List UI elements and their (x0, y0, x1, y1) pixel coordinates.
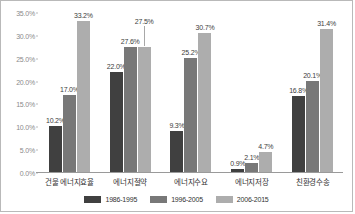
y-axis-tick-label: 0.0% (20, 170, 35, 177)
category-label: 에너지수요 (161, 176, 222, 188)
legend-label: 1996-2005 (171, 196, 203, 203)
bar-group: 22.0%27.6%27.5% (100, 13, 161, 173)
bar-wrapper: 0.9% (231, 13, 244, 173)
y-axis-tick-mark (36, 35, 38, 36)
bar-value-label: 31.4% (317, 20, 336, 27)
category-labels: 건물 에너지효율에너지절약에너지수요에너지저장친환경수송 (39, 176, 343, 188)
bar-wrapper: 25.2% (184, 13, 197, 173)
bar-group: 9.3%25.2%30.7% (161, 13, 222, 173)
y-axis-tick-label: 25.0% (16, 55, 35, 62)
bar[interactable] (138, 47, 151, 173)
legend-swatch (216, 196, 233, 203)
bar-wrapper: 27.5% (138, 13, 151, 173)
legend-label: 1986-1995 (105, 196, 137, 203)
bar[interactable] (198, 33, 211, 173)
bar-wrapper: 17.0% (63, 13, 76, 173)
bar-wrapper: 20.1% (306, 13, 319, 173)
legend-item[interactable]: 1996-2005 (150, 196, 203, 203)
bar-value-label: 0.9% (230, 160, 245, 167)
y-axis-tick-label: 15.0% (16, 101, 35, 108)
bar-value-label: 30.7% (196, 24, 215, 31)
bar[interactable] (306, 81, 319, 173)
bar[interactable] (170, 131, 183, 174)
bar-wrapper: 31.4% (320, 13, 333, 173)
plot-area: 35.0%30.0%25.0%20.0%15.0%10.0%5.0%0.0% 1… (39, 13, 343, 173)
bar-wrapper: 27.6% (124, 13, 137, 173)
bar-value-label: 9.3% (169, 122, 184, 129)
y-axis-tick-label: 5.0% (20, 147, 35, 154)
y-axis-tick-mark (36, 127, 38, 128)
legend-swatch (150, 196, 167, 203)
bar-wrapper: 2.1% (245, 13, 258, 173)
legend-label: 2006-2015 (237, 196, 269, 203)
category-label: 친환경수송 (282, 176, 343, 188)
bar-wrapper: 9.3% (170, 13, 183, 173)
y-axis-tick-label: 30.0% (16, 32, 35, 39)
bar-value-label: 33.2% (74, 12, 93, 19)
bar-value-label: 27.5% (135, 18, 154, 25)
bar[interactable] (124, 47, 137, 173)
bar[interactable] (320, 29, 333, 173)
bar[interactable] (184, 58, 197, 173)
y-axis-tick-label: 20.0% (16, 78, 35, 85)
bar-group: 16.8%20.1%31.4% (282, 13, 343, 173)
bar-value-label: 4.7% (258, 143, 273, 150)
bar-wrapper: 30.7% (198, 13, 211, 173)
bar-groups: 10.2%17.0%33.2%22.0%27.6%27.5%9.3%25.2%3… (39, 13, 343, 173)
bar-chart: 35.0%30.0%25.0%20.0%15.0%10.0%5.0%0.0% 1… (0, 0, 353, 212)
category-label: 에너지저장 (221, 176, 282, 188)
bar-wrapper: 16.8% (292, 13, 305, 173)
y-axis-tick-mark (36, 150, 38, 151)
legend-item[interactable]: 1986-1995 (84, 196, 137, 203)
x-axis-line (36, 172, 343, 173)
y-axis-tick-mark (36, 58, 38, 59)
y-axis-tick-mark (36, 104, 38, 105)
bar-value-label: 2.1% (244, 154, 259, 161)
bar-wrapper: 33.2% (77, 13, 90, 173)
category-label: 에너지절약 (100, 176, 161, 188)
y-axis-tick-label: 35.0% (16, 10, 35, 17)
label-leader-line (144, 26, 145, 46)
bar-group: 10.2%17.0%33.2% (39, 13, 100, 173)
legend: 1986-19951996-20052006-2015 (1, 196, 352, 203)
category-label: 건물 에너지효율 (39, 176, 100, 188)
bar[interactable] (110, 72, 123, 173)
bar[interactable] (49, 126, 62, 173)
legend-item[interactable]: 2006-2015 (216, 196, 269, 203)
y-axis-tick-mark (36, 81, 38, 82)
bar[interactable] (63, 95, 76, 173)
bar[interactable] (292, 96, 305, 173)
legend-swatch (84, 196, 101, 203)
bar-group: 0.9%2.1%4.7% (221, 13, 282, 173)
bar-wrapper: 4.7% (259, 13, 272, 173)
bar[interactable] (259, 152, 272, 173)
y-axis-tick-mark (36, 13, 38, 14)
y-axis-tick-label: 10.0% (16, 124, 35, 131)
bar[interactable] (77, 21, 90, 173)
